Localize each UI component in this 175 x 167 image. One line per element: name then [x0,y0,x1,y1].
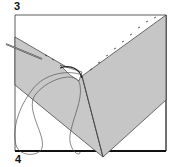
sewing-diagram [0,0,175,167]
